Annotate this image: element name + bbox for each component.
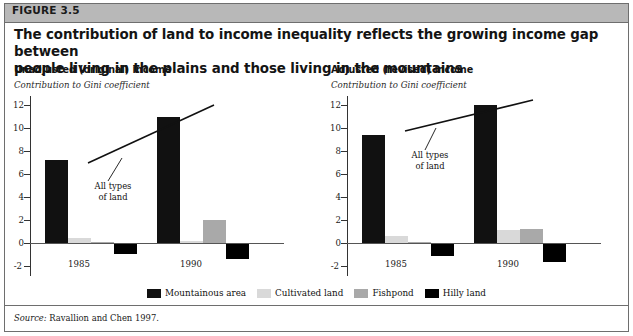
figure-container: FIGURE 3.5 The contribution of land to i… <box>0 0 633 336</box>
left-panel-y-axis-caption: Contribution to Gini coefficient <box>14 80 150 90</box>
legend-item-fishpond: Fishpond <box>354 288 413 298</box>
chart-legend: Mountainous area Cultivated land Fishpon… <box>0 288 633 298</box>
left-chart-plot-area: 12 10 8 6 4 2 0 -2 1985 1990 <box>4 96 284 276</box>
legend-item-cultivated-land: Cultivated land <box>257 288 343 298</box>
figure-number-band <box>5 4 628 23</box>
left-annotation-all-types-of-land: All types of land <box>82 181 144 203</box>
source-divider <box>5 305 628 306</box>
source-label: Source: <box>14 313 47 323</box>
legend-item-hilly-land: Hilly land <box>425 288 486 298</box>
right-annotation-all-types-of-land: All types of land <box>399 150 461 172</box>
legend-label-cultivated-land: Cultivated land <box>275 288 343 298</box>
legend-swatch-fishpond <box>354 289 368 298</box>
headline-line-1: The contribution of land to income inequ… <box>14 27 598 59</box>
right-panel-y-axis-caption: Contribution to Gini coefficient <box>331 80 467 90</box>
legend-item-mountainous-area: Mountainous area <box>147 288 246 298</box>
figure-number-label: FIGURE 3.5 <box>12 4 80 16</box>
legend-label-fishpond: Fishpond <box>372 288 413 298</box>
source-text: Ravallion and Chen 1997. <box>49 313 159 323</box>
legend-label-hilly-land: Hilly land <box>443 288 486 298</box>
legend-swatch-hilly-land <box>425 289 439 298</box>
left-annotation-line-1: All types <box>95 181 132 191</box>
right-panel-title: Adjusted (revised) income <box>331 64 473 75</box>
right-annotation-line-1: All types <box>412 150 449 160</box>
legend-swatch-cultivated-land <box>257 289 271 298</box>
left-annotation-line-2: of land <box>98 192 127 202</box>
source-note: Source: Ravallion and Chen 1997. <box>14 313 159 323</box>
right-annotation-leader-line <box>321 96 601 276</box>
right-chart-plot-area: 12 10 8 6 4 2 0 -2 1985 1990 <box>321 96 601 276</box>
legend-label-mountainous-area: Mountainous area <box>165 288 246 298</box>
right-annotation-line-2: of land <box>415 161 444 171</box>
left-panel-title: Unadjusted (original) income <box>14 64 171 75</box>
left-annotation-leader-line <box>4 96 284 276</box>
legend-swatch-mountainous-area <box>147 289 161 298</box>
